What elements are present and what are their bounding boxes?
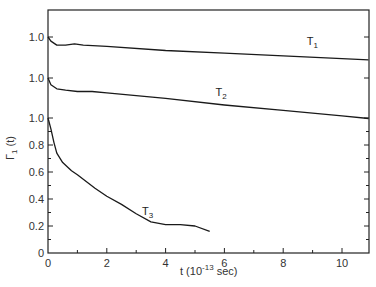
curve-t1 (48, 37, 369, 60)
x-tick-label: 0 (45, 257, 51, 269)
x-tick-label: 8 (280, 257, 286, 269)
y-axis-title: Γ1 (t) (4, 136, 19, 160)
x-tick-label: 4 (163, 257, 169, 269)
x-axis-title: t (10-13 sec) (180, 263, 237, 277)
axis-tick-labels: 024681000.20.40.60.81.01.01.0 (29, 31, 348, 269)
curves (48, 37, 369, 231)
y-tick-label: 0.4 (29, 193, 44, 205)
y-tick-label: 0.2 (29, 220, 44, 232)
offset-y-tick-label: 1.0 (29, 31, 44, 43)
curve-label-t1: T1 (307, 35, 319, 50)
curve-t3 (48, 118, 210, 231)
axis-ticks (48, 37, 369, 253)
y-tick-label: 0.6 (29, 166, 44, 178)
curve-t2 (48, 78, 369, 119)
x-tick-label: 2 (104, 257, 110, 269)
y-tick-label: 0 (38, 247, 44, 259)
x-tick-label: 10 (336, 257, 348, 269)
y-tick-label: 1.0 (29, 112, 44, 124)
curve-label-t2: T2 (216, 86, 228, 101)
chart-canvas: 024681000.20.40.60.81.01.01.0 T1T2T3 t (… (0, 0, 376, 287)
y-tick-label: 0.8 (29, 139, 44, 151)
offset-y-tick-label: 1.0 (29, 72, 44, 84)
curve-labels: T1T2T3 (142, 35, 318, 220)
